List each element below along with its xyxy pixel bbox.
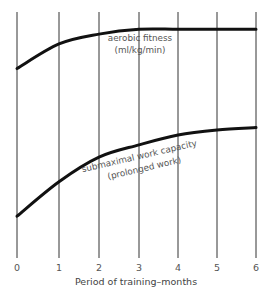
x-tick-labels: 0123456 [14, 262, 259, 273]
x-tick-label: 5 [214, 262, 220, 273]
curves [17, 29, 256, 216]
x-axis-title: Period of training–months [75, 276, 197, 287]
x-tick-label: 4 [175, 262, 181, 273]
aerobic-fitness-label: aerobic fitness [108, 33, 173, 43]
x-tick-label: 6 [253, 262, 259, 273]
x-tick-label: 3 [136, 262, 142, 273]
x-tick-label: 0 [14, 262, 20, 273]
x-tick-label: 2 [96, 262, 102, 273]
line-chart: aerobic fitness (ml/kg/min) submaximal w… [0, 0, 268, 291]
aerobic-fitness-units: (ml/kg/min) [114, 45, 165, 55]
x-tick-label: 1 [56, 262, 62, 273]
